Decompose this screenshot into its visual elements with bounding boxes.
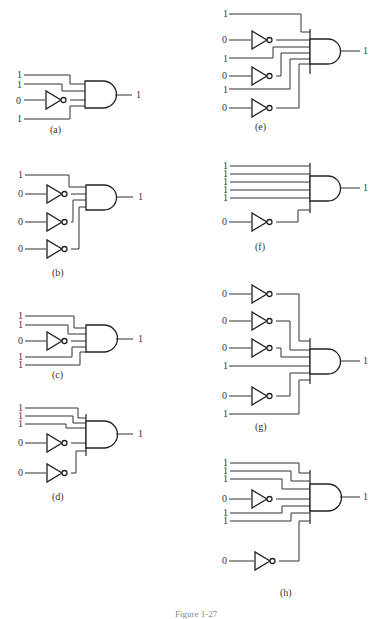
panel-label-f: (f) — [255, 241, 265, 253]
input-d5: 0 — [18, 467, 23, 478]
not-gate-icon — [47, 464, 67, 482]
input-e2: 0 — [222, 34, 227, 45]
input-g5: 0 — [222, 390, 227, 401]
panel-c: 1 1 0 1 1 1 (c) — [18, 310, 143, 381]
figure-caption-clipped: Figure 1-27 — [175, 609, 217, 619]
and-gate-icon — [86, 325, 118, 352]
not-gate-icon — [252, 285, 272, 303]
input-c5: 1 — [18, 359, 23, 370]
output-f: 1 — [363, 182, 368, 193]
output-b: 1 — [138, 191, 143, 202]
input-d4: 0 — [18, 437, 23, 448]
input-f6: 0 — [222, 216, 227, 227]
panel-e: 1 0 1 0 1 0 1 (e) — [222, 8, 368, 133]
and-gate-icon — [310, 349, 341, 374]
input-a3: 0 — [16, 95, 21, 106]
panel-a: 1 1 0 1 1 (a) — [16, 69, 141, 136]
panel-label-h: (h) — [280, 587, 292, 599]
output-h: 1 — [363, 491, 368, 502]
input-e6: 0 — [222, 102, 227, 113]
and-gate-icon — [85, 81, 116, 108]
not-gate-icon — [47, 213, 67, 231]
input-e5: 1 — [223, 84, 228, 95]
not-gate-icon — [47, 240, 67, 258]
not-gate-icon — [255, 552, 275, 570]
input-h4: 0 — [222, 493, 227, 504]
input-b1: 1 — [18, 169, 23, 180]
not-gate-icon — [47, 332, 67, 350]
input-g4: 1 — [223, 360, 228, 371]
not-gate-icon — [252, 490, 272, 508]
output-a: 1 — [136, 89, 141, 100]
input-b4: 0 — [18, 243, 23, 254]
input-f5: 1 — [223, 192, 228, 203]
panel-label-a: (a) — [50, 124, 61, 136]
panel-label-e: (e) — [255, 121, 266, 133]
input-b2: 0 — [18, 188, 23, 199]
not-gate-icon — [46, 91, 66, 109]
input-g3: 0 — [222, 342, 227, 353]
input-b3: 0 — [18, 216, 23, 227]
not-gate-icon — [47, 434, 67, 452]
input-h7: 0 — [222, 555, 227, 566]
input-g6: 1 — [223, 408, 228, 419]
output-g: 1 — [363, 355, 368, 366]
not-gate-icon — [252, 99, 272, 117]
not-gate-icon — [47, 185, 67, 203]
input-e4: 0 — [222, 70, 227, 81]
input-d3: 1 — [18, 418, 23, 429]
panel-b: 1 0 0 0 1 (b) — [18, 169, 143, 279]
panel-label-g: (g) — [255, 421, 267, 433]
input-g2: 0 — [222, 315, 227, 326]
panel-d: 1 1 1 0 0 1 (d) — [18, 402, 143, 503]
not-gate-icon — [252, 67, 272, 85]
and-gate-icon — [310, 39, 341, 64]
not-gate-icon — [252, 312, 272, 330]
output-d: 1 — [138, 428, 143, 439]
input-a4: 1 — [17, 113, 22, 124]
panel-f: 1 1 1 1 1 0 1 (f) — [222, 160, 368, 253]
and-gate-icon — [86, 421, 118, 448]
not-gate-icon — [252, 31, 272, 49]
panel-label-b: (b) — [52, 267, 64, 279]
panel-label-d: (d) — [52, 491, 64, 503]
not-gate-icon — [252, 339, 272, 357]
input-e3: 1 — [223, 53, 228, 64]
and-gate-icon — [86, 185, 117, 210]
and-gate-icon — [310, 176, 341, 201]
panel-label-c: (c) — [52, 369, 63, 381]
not-gate-icon — [252, 213, 272, 231]
not-gate-icon — [252, 387, 272, 405]
input-h3: 1 — [223, 473, 228, 484]
input-g1: 0 — [222, 288, 227, 299]
panel-g: 0 0 0 1 0 1 1 (g) — [222, 285, 368, 433]
input-c3: 0 — [18, 335, 23, 346]
input-h6: 1 — [223, 515, 228, 526]
input-a2: 1 — [17, 79, 22, 90]
input-c2: 1 — [18, 319, 23, 330]
and-gate-icon — [310, 484, 342, 511]
input-e1: 1 — [223, 8, 228, 19]
output-c: 1 — [138, 333, 143, 344]
output-e: 1 — [363, 45, 368, 56]
panel-h: 1 1 1 0 1 1 0 1 (h) — [222, 457, 368, 599]
